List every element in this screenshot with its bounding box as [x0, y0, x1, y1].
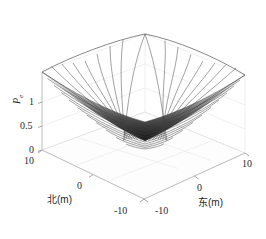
surface-mesh	[42, 34, 245, 149]
east-tick-label-minus10: -10	[155, 206, 168, 216]
east-axis-title: 东(m)	[198, 198, 223, 208]
plot-canvas	[0, 0, 266, 239]
east-tick-label-10: 10	[242, 159, 252, 169]
east-tick-label-0: 0	[197, 183, 202, 193]
north-tick-label-0: 0	[77, 181, 82, 191]
north-tick-label-10: 10	[24, 156, 34, 166]
z-axis-title-text: P	[11, 98, 22, 104]
z-tick-label-0: 0	[29, 145, 34, 155]
north-tick-label-minus10: -10	[114, 206, 127, 216]
z-axis-ticks	[38, 102, 42, 152]
north-axis-title: 北(m)	[47, 195, 72, 205]
z-tick-label-1: 1	[29, 97, 34, 107]
surface-plot-figure: 1 0.5 0 Pe 10 0 -10 北(m) -10 0 10 东(m)	[0, 0, 266, 239]
z-tick-label-05: 0.5	[20, 121, 33, 131]
z-axis-title-subscript: e	[17, 95, 25, 98]
z-axis-title: Pe	[12, 95, 25, 104]
